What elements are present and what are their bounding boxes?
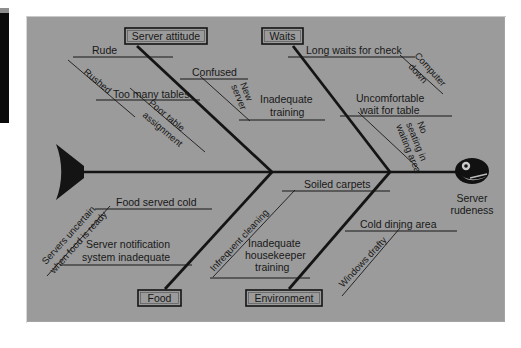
cause-label-inadequate-hk-line3: training [255,261,290,273]
cause-label-cold-dining-area: Cold dining area [360,218,437,230]
cause-label-inadequate-training-line2: training [270,106,305,118]
cause-label-rushed: Rushed [82,66,114,95]
cause-label-inadequate-hk-line2: housekeeper [245,249,306,261]
subbone-windows-drafty [342,228,400,296]
effect-label-line2: rudeness [450,204,493,216]
cause-label-soiled-carpets: Soiled carpets [304,178,371,190]
category-label-server-attitude: Server attitude [132,30,200,42]
cause-label-server-notif-line1: Server notification [86,238,170,250]
category-box-environment[interactable]: Environment [246,290,322,306]
category-label-waits: Waits [270,30,296,42]
cause-label-too-many-tables: Too many tables [113,88,189,100]
cause-label-windows-drafty: Windows drafty [336,234,389,289]
fish-tail-icon [56,144,84,200]
cause-label-uncomfortable-line1: Uncomfortable [356,92,424,104]
effect-label-line1: Server [457,192,488,204]
cause-label-long-waits-for-check: Long waits for check [306,44,402,56]
category-label-environment: Environment [255,292,314,304]
cause-label-uncomfortable-line2: wait for table [359,104,420,116]
fish-head-icon [455,158,489,184]
category-box-food[interactable]: Food [138,290,181,306]
cause-label-rude: Rude [92,44,117,56]
cause-label-server-notif-line2: system inadequate [82,251,170,263]
category-box-server-attitude[interactable]: Server attitude [125,28,207,44]
cause-label-inadequate-hk-line1: Inadequate [248,237,301,249]
cause-label-food-served-cold: Food served cold [116,196,197,208]
cause-label-inadequate-training-line1: Inadequate [260,93,313,105]
cause-label-confused: Confused [192,66,237,78]
category-label-food: Food [148,292,172,304]
fishbone-diagram: Server attitude Waits Food Environment R… [0,0,521,348]
category-box-waits[interactable]: Waits [262,28,303,44]
